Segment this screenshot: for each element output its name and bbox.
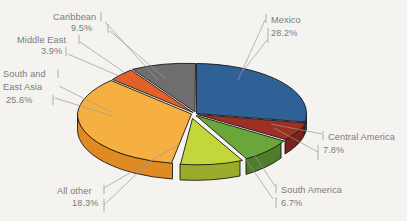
middle-east-leader-2 [68,54,119,76]
label-all-other-pct: 18.3% [72,198,99,208]
label-south-and-east-asia-pct: 25.6% [6,95,33,105]
label-central-america-name: Central America [328,132,396,142]
label-central-america-pct: 7.8% [323,145,344,155]
label-middle-east-name: Middle East [17,35,66,45]
label-mexico-name: Mexico [271,15,301,25]
pie-chart-figure: Caribbean 9.5% Middle East 3.9% South an… [0,0,407,221]
mexico-leader-2 [243,40,267,71]
callout-caribbean: Caribbean 9.5% [53,12,166,80]
label-south-and-east-asia-line2: East Asia [3,82,43,92]
slice-mexico [197,64,307,123]
label-south-america-name: South America [281,185,343,195]
pie-chart-svg: Caribbean 9.5% Middle East 3.9% South an… [0,0,407,221]
label-south-america-pct: 6.7% [281,198,302,208]
label-mexico-pct: 28.2% [271,28,298,38]
label-south-and-east-asia-line1: South and [3,69,46,79]
label-caribbean-pct: 9.5% [71,23,92,33]
label-caribbean-name: Caribbean [53,12,96,22]
label-middle-east-pct: 3.9% [41,46,62,56]
label-all-other-name: All other [57,186,92,196]
middle-east-leader [80,42,124,72]
callout-south-america: South America 6.7% [240,147,343,208]
